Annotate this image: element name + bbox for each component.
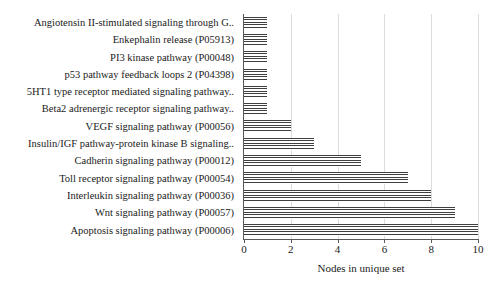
category-label: PI3 kinase pathway (P00048) [0, 49, 238, 66]
gridline [478, 14, 479, 239]
category-label: Angiotensin II-stimulated signaling thro… [0, 14, 238, 31]
bar [244, 155, 361, 167]
category-axis-line [243, 14, 244, 240]
value-axis-tick-label: 10 [463, 243, 493, 256]
bar [244, 51, 267, 63]
category-label: Wnt signaling pathway (P00057) [0, 204, 238, 221]
value-axis-tick-label: 4 [323, 243, 353, 256]
bar [244, 86, 267, 98]
bar-row [244, 170, 478, 187]
category-label: Insulin/IGF pathway-protein kinase B sig… [0, 135, 238, 152]
value-axis-tick-label: 2 [276, 243, 306, 256]
value-axis-tick-label: 6 [369, 243, 399, 256]
value-axis-line [243, 239, 479, 240]
value-axis-tick-label: 8 [416, 243, 446, 256]
bar-series [244, 14, 478, 239]
bar-row [244, 135, 478, 152]
bar-chart: Angiotensin II-stimulated signaling thro… [0, 0, 504, 289]
category-label: Apoptosis signaling pathway (P00006) [0, 222, 238, 239]
category-label: p53 pathway feedback loops 2 (P04398) [0, 66, 238, 83]
bar [244, 190, 431, 202]
bar-row [244, 152, 478, 169]
category-label: Cadherin signaling pathway (P00012) [0, 152, 238, 169]
category-label: Beta2 adrenergic receptor signaling path… [0, 100, 238, 117]
bar [244, 103, 267, 115]
bar [244, 69, 267, 81]
category-axis-labels: Angiotensin II-stimulated signaling thro… [0, 14, 238, 239]
bar [244, 34, 267, 46]
bar-row [244, 222, 478, 239]
bar [244, 207, 455, 219]
bar-row [244, 31, 478, 48]
category-label: Interleukin signaling pathway (P00036) [0, 187, 238, 204]
category-label: 5HT1 type receptor mediated signaling pa… [0, 83, 238, 100]
bar [244, 17, 267, 29]
bar [244, 138, 314, 150]
plot-area [244, 14, 478, 239]
value-axis-tick-label: 0 [229, 243, 259, 256]
bar-row [244, 83, 478, 100]
bar [244, 120, 291, 132]
x-axis-title: Nodes in unique set [244, 262, 478, 274]
bar-row [244, 66, 478, 83]
bar-row [244, 118, 478, 135]
category-label: Enkephalin release (P05913) [0, 31, 238, 48]
category-label: VEGF signaling pathway (P00056) [0, 118, 238, 135]
category-label: Toll receptor signaling pathway (P00054) [0, 170, 238, 187]
bar-row [244, 100, 478, 117]
bar-row [244, 187, 478, 204]
bar [244, 224, 478, 236]
bar-row [244, 14, 478, 31]
bar [244, 172, 408, 184]
bar-row [244, 49, 478, 66]
bar-row [244, 204, 478, 221]
